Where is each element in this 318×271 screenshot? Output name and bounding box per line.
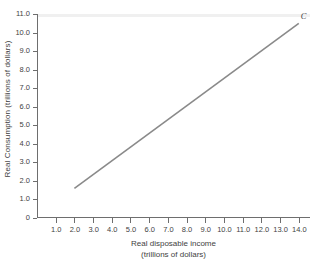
y-tick-label: 4.0 bbox=[20, 139, 30, 148]
x-tick-label: 11.0 bbox=[236, 225, 250, 234]
x-tick-label: 13.0 bbox=[273, 225, 288, 234]
x-tick-label: 14.0 bbox=[292, 225, 307, 234]
x-tick: 11.0 bbox=[243, 218, 244, 223]
x-tick: 6.0 bbox=[149, 218, 150, 223]
y-tick-label: 1.0 bbox=[20, 194, 30, 203]
x-tick: 13.0 bbox=[280, 218, 281, 223]
series-label-c: C bbox=[301, 11, 307, 21]
x-tick: 2.0 bbox=[74, 218, 75, 223]
x-tick: 3.0 bbox=[93, 218, 94, 223]
x-tick-label: 10.0 bbox=[217, 225, 232, 234]
x-tick-label: 5.0 bbox=[126, 225, 136, 234]
x-tick-label: 4.0 bbox=[107, 225, 117, 234]
x-axis-title-line1: Real disposable income bbox=[37, 238, 310, 249]
x-tick: 7.0 bbox=[168, 218, 169, 223]
y-tick-label: 2.0 bbox=[20, 176, 30, 185]
consumption-function-chart: Real Consumption (trillions of dollars) … bbox=[0, 0, 318, 271]
y-tick-label: 0 bbox=[26, 213, 30, 222]
x-tick: 14.0 bbox=[299, 218, 300, 223]
x-axis-title-line2: (trillions of dollars) bbox=[37, 249, 310, 260]
y-tick-label: 5.0 bbox=[20, 120, 30, 129]
series-line-c bbox=[37, 14, 310, 218]
x-tick-label: 7.0 bbox=[163, 225, 173, 234]
y-axis-title: Real Consumption (trillions of dollars) bbox=[3, 41, 12, 178]
x-tick: 5.0 bbox=[130, 218, 131, 223]
x-tick-label: 2.0 bbox=[70, 225, 80, 234]
x-tick-label: 12.0 bbox=[255, 225, 270, 234]
y-tick-label: 10.0 bbox=[15, 28, 30, 37]
x-tick: 10.0 bbox=[224, 218, 225, 223]
y-axis-title-wrapper: Real Consumption (trillions of dollars) bbox=[0, 0, 14, 218]
y-tick-label: 9.0 bbox=[20, 46, 30, 55]
y-tick-label: 7.0 bbox=[20, 83, 30, 92]
plot-area: 01.02.03.04.05.06.07.08.09.010.011.0 1.0… bbox=[37, 14, 310, 218]
x-tick: 1.0 bbox=[56, 218, 57, 223]
x-tick: 12.0 bbox=[261, 218, 262, 223]
y-tick-label: 6.0 bbox=[20, 102, 30, 111]
x-tick-label: 1.0 bbox=[51, 225, 61, 234]
x-tick-label: 8.0 bbox=[182, 225, 192, 234]
x-tick-label: 3.0 bbox=[88, 225, 98, 234]
x-tick-label: 6.0 bbox=[144, 225, 154, 234]
y-tick-label: 3.0 bbox=[20, 157, 30, 166]
y-tick-label: 11.0 bbox=[16, 9, 30, 18]
x-axis-title: Real disposable income (trillions of dol… bbox=[37, 238, 310, 260]
x-tick: 9.0 bbox=[205, 218, 206, 223]
x-tick-label: 9.0 bbox=[201, 225, 211, 234]
y-tick-label: 8.0 bbox=[20, 65, 30, 74]
x-tick: 8.0 bbox=[187, 218, 188, 223]
y-tick: 0 bbox=[33, 218, 37, 219]
x-tick: 4.0 bbox=[112, 218, 113, 223]
